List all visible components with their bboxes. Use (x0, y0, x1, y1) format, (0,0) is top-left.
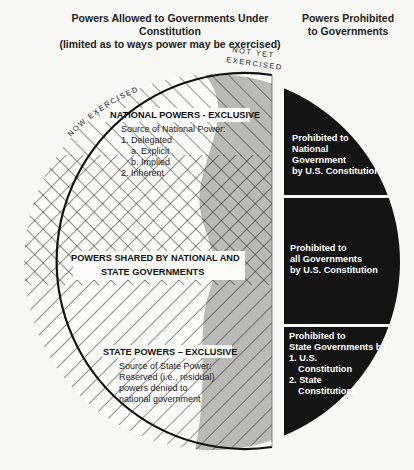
prohibited-state-line3: 1. U.S. (289, 353, 387, 364)
not-yet-label-line2: EXERCISED (226, 55, 284, 72)
prohibited-state-line5: 2. State (289, 375, 387, 386)
prohibited-state-line2: State Governments by (289, 342, 387, 353)
prohibited-national-label: Prohibited to National Government by U.S… (292, 133, 380, 177)
prohibited-all-label: Prohibited to all Governments by U.S. Co… (290, 243, 378, 276)
state-reserved-line: Reserved (i.e., residual) (119, 372, 215, 383)
national-item-implied: b. Implied (131, 157, 170, 168)
national-source-label: Source of National Power: (121, 124, 226, 135)
prohibited-state-line4: Constitution (289, 364, 387, 375)
prohibited-national-line4: by U.S. Constitution (292, 166, 380, 177)
shared-powers-line2: STATE GOVERNMENTS (101, 267, 204, 278)
prohibited-state-line6: Constitutions (289, 386, 387, 397)
state-source-label: Source of State Power: (119, 361, 212, 372)
prohibited-national-line1: Prohibited to (292, 133, 380, 144)
state-national-gov-line: national government (119, 394, 201, 405)
prohibited-national-line2: National (292, 144, 380, 155)
shared-powers-line1: POWERS SHARED BY NATIONAL AND (71, 253, 240, 264)
prohibited-national-line3: Government (292, 155, 380, 166)
prohibited-state-label: Prohibited to State Governments by 1. U.… (289, 331, 387, 397)
national-item-delegated: 1. Delegated (121, 135, 172, 146)
national-powers-title: NATIONAL POWERS - EXCLUSIVE (110, 110, 260, 121)
prohibited-all-line3: by U.S. Constitution (290, 265, 378, 276)
prohibited-all-line2: all Governments (290, 254, 378, 265)
state-powers-title: STATE POWERS – EXCLUSIVE (103, 347, 237, 358)
prohibited-state-line1: Prohibited to (289, 331, 387, 342)
powers-circle-diagram: NOW EXERCISED NOT YET EXERCISED (0, 0, 414, 470)
state-denied-line: powers denied to (119, 383, 188, 394)
national-item-explicit: a. Explicit (131, 146, 170, 157)
national-item-inherent: 2. Inherent (121, 168, 164, 179)
prohibited-all-line1: Prohibited to (290, 243, 378, 254)
